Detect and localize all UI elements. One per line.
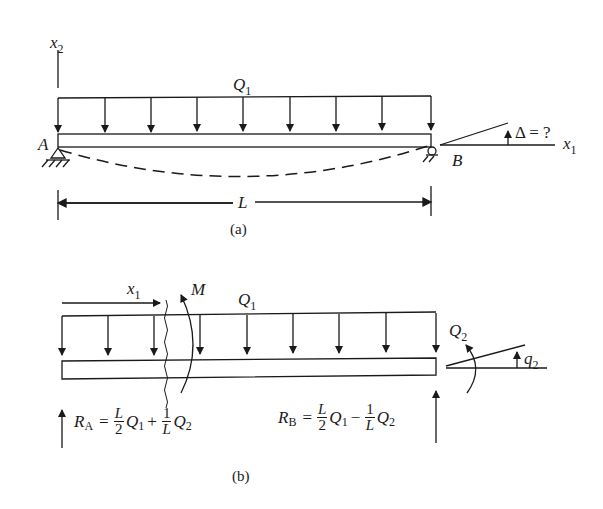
moment-m-label: M xyxy=(191,281,205,298)
end-moment-q2-arrow xyxy=(466,345,476,393)
deflected-shape xyxy=(60,146,428,177)
support-b-label: B xyxy=(452,152,462,169)
reaction-b-equation: RB = L2 Q1 − 1L Q2 xyxy=(278,402,395,433)
load-arrows-a xyxy=(58,96,431,132)
rotated-line-b xyxy=(446,345,525,366)
reaction-a-equation: RA = L2 Q1 + 1L Q2 xyxy=(74,406,192,437)
load-q1-top-line-b xyxy=(62,312,436,316)
caption-b: (b) xyxy=(232,468,250,485)
section-cut-line xyxy=(165,300,168,408)
beam-a xyxy=(58,134,431,147)
caption-a: (a) xyxy=(230,221,247,238)
support-a-label: A xyxy=(38,136,48,153)
rotated-tangent-line xyxy=(440,123,508,145)
span-length-label: L xyxy=(238,194,247,211)
load-arrows-b xyxy=(62,313,436,355)
roller-support-b xyxy=(428,147,436,155)
section-x1-label: x1 xyxy=(127,280,141,297)
load-q1-label: Q1 xyxy=(233,76,251,93)
rotation-delta-label: Δ = ? xyxy=(515,124,551,141)
beam-b xyxy=(62,358,436,379)
axis-x1-label: x1 xyxy=(563,135,577,152)
load-q1-label-b: Q1 xyxy=(238,291,256,308)
end-moment-q2-label: Q2 xyxy=(449,322,467,339)
rotation-q2-label: q2 xyxy=(524,350,539,367)
axis-x2-label: x2 xyxy=(50,34,64,51)
pin-support-a xyxy=(51,148,65,158)
